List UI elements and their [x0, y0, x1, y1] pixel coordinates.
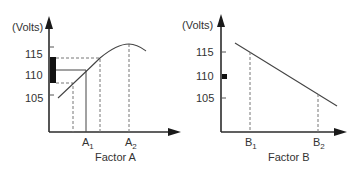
chart-factor-b: (Volts) 115 110 105 B1 B2 Factor B: [182, 14, 347, 163]
lower-projection-dashed: [56, 83, 73, 132]
y-axis-label: (Volts): [12, 21, 43, 33]
x-axis-arrow-icon: [334, 128, 347, 136]
output-variation-bar: [50, 57, 56, 83]
x-tick-label-b2: B2: [313, 136, 325, 151]
x-tick-label-b1: B1: [245, 136, 257, 151]
y-tick-label-115: 115: [196, 46, 214, 58]
y-tick-label-110: 110: [25, 69, 43, 81]
y-tick-label-115: 115: [25, 48, 43, 60]
output-variation-marker: [222, 74, 227, 79]
x-axis-label: Factor B: [268, 151, 310, 163]
x-axis-label: Factor A: [95, 151, 137, 163]
diagram-canvas: (Volts) 115 110 105 A1 A2 Factor A (Volt…: [0, 0, 362, 169]
y-axis-label: (Volts): [182, 19, 213, 31]
y-axis-arrow-icon: [45, 16, 53, 29]
x-axis-arrow-icon: [168, 128, 181, 136]
chart-factor-a: (Volts) 115 110 105 A1 A2 Factor A: [12, 16, 181, 163]
a1-projection-line: [56, 70, 86, 132]
x-tick-label-a1: A1: [82, 136, 94, 151]
y-tick-label-110: 110: [196, 70, 214, 82]
y-tick-label-105: 105: [25, 92, 43, 104]
y-tick-label-105: 105: [196, 92, 214, 104]
upper-projection-dashed: [56, 58, 100, 132]
y-axis-arrow-icon: [217, 14, 225, 27]
x-tick-label-a2: A2: [125, 136, 137, 151]
response-curve-a: [58, 44, 146, 98]
